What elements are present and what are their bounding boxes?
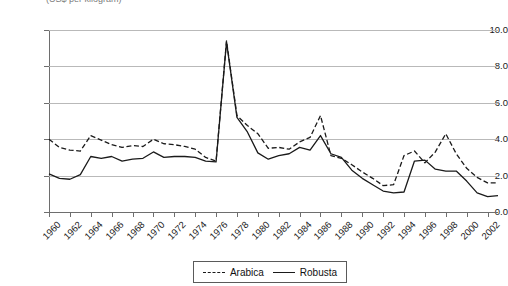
x-axis-tick [174,213,175,217]
x-axis-tick [258,213,259,217]
series-line-arabica [49,41,498,186]
x-axis-tick [320,213,321,217]
x-axis-tick [300,213,301,217]
x-axis-tick [49,213,50,217]
x-axis-tick [383,213,384,217]
x-axis-tick [112,213,113,217]
x-axis-tick [446,213,447,217]
series-line-robusta [49,42,498,197]
chart-legend: Arabica Robusta [193,261,347,283]
legend-label-arabica: Arabica [230,267,264,278]
x-axis-tick [362,213,363,217]
legend-item-arabica: Arabica [203,267,264,278]
x-axis-tick [488,213,489,217]
series-lines [49,30,498,212]
x-axis-tick [195,213,196,217]
solid-line-icon [273,272,295,273]
chart-root: (US$ per kilogram) 0.02.04.06.08.010.0 1… [0,0,508,286]
x-axis-tick [133,213,134,217]
x-axis-tick [341,213,342,217]
x-axis-tick [237,213,238,217]
x-axis-tick [425,213,426,217]
x-axis-tick [70,213,71,217]
x-axis-tick [279,213,280,217]
plot-area [49,30,498,212]
chart-title: (US$ per kilogram) [46,0,246,4]
x-axis-tick [153,213,154,217]
x-axis-line [49,212,498,213]
legend-item-robusta: Robusta [273,267,337,278]
legend-label-robusta: Robusta [300,267,337,278]
dashed-line-icon [203,272,225,273]
x-axis-tick [404,213,405,217]
x-axis-tick [91,213,92,217]
x-axis-tick [216,213,217,217]
x-axis-tick [467,213,468,217]
